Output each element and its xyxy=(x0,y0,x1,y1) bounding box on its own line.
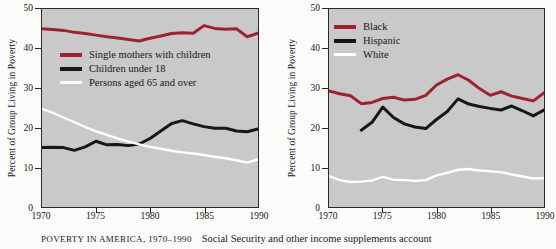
y-tick-label: 10 xyxy=(7,163,33,173)
legend-label: Black xyxy=(363,21,388,32)
y-tick-label: 30 xyxy=(294,83,320,93)
legend-label: Single mothers with children xyxy=(89,49,211,60)
y-tick-label: 40 xyxy=(294,43,320,53)
series-line xyxy=(329,75,544,104)
legend-left: Single mothers with childrenChildren und… xyxy=(60,48,211,90)
plot-area-left xyxy=(41,8,259,208)
legend-swatch xyxy=(334,25,356,29)
x-tick-label: 1990 xyxy=(525,211,556,221)
y-tick-label: 50 xyxy=(7,3,33,13)
legend-item: Black xyxy=(334,20,400,33)
series-line xyxy=(42,109,258,163)
legend-item: Children under 18 xyxy=(60,62,211,75)
legend-item: Persons aged 65 and over xyxy=(60,76,211,89)
caption-title: POVERTY IN AMERICA, 1970–1990 xyxy=(41,234,192,244)
legend-swatch xyxy=(60,81,82,84)
chart-panel-left: Percent of Group Living in Poverty 01020… xyxy=(0,0,278,232)
legend-swatch xyxy=(334,53,356,56)
y-tick-label: 10 xyxy=(294,163,320,173)
caption-body: Social Security and other income supplem… xyxy=(202,233,432,244)
y-axis-title-right: Percent of Group Living in Poverty xyxy=(287,8,297,208)
x-tick-mark xyxy=(205,208,206,213)
legend-swatch xyxy=(60,53,82,57)
legend-item: Hispanic xyxy=(334,34,400,47)
x-tick-mark xyxy=(437,208,438,213)
x-tick-mark xyxy=(382,208,383,213)
x-tick-label: 1970 xyxy=(21,211,61,221)
x-tick-mark xyxy=(96,208,97,213)
legend-label: Hispanic xyxy=(363,35,400,46)
legend-right: BlackHispanicWhite xyxy=(334,20,400,62)
y-tick-label: 50 xyxy=(294,3,320,13)
legend-item: Single mothers with children xyxy=(60,48,211,61)
legend-label: Persons aged 65 and over xyxy=(89,77,196,88)
legend-swatch xyxy=(60,67,82,71)
x-tick-mark xyxy=(491,208,492,213)
x-tick-label: 1990 xyxy=(239,211,279,221)
figure-caption: POVERTY IN AMERICA, 1970–1990Social Secu… xyxy=(41,233,551,244)
y-axis-title-left: Percent of Group Living in Poverty xyxy=(7,8,17,208)
y-tick-label: 30 xyxy=(7,83,33,93)
x-tick-label: 1970 xyxy=(308,211,348,221)
series-line xyxy=(42,26,258,41)
y-tick-label: 40 xyxy=(7,43,33,53)
line-series-left xyxy=(42,9,258,207)
legend-label: White xyxy=(363,49,389,60)
series-line xyxy=(329,169,544,182)
series-line xyxy=(361,99,544,130)
y-tick-label: 20 xyxy=(294,123,320,133)
chart-panel-right: Percent of Group Living in Poverty 01020… xyxy=(278,0,556,232)
legend-swatch xyxy=(334,39,356,43)
x-tick-mark xyxy=(150,208,151,213)
legend-item: White xyxy=(334,48,400,61)
legend-label: Children under 18 xyxy=(89,63,165,74)
y-tick-label: 20 xyxy=(7,123,33,133)
poverty-figure: Percent of Group Living in Poverty 01020… xyxy=(0,0,556,249)
